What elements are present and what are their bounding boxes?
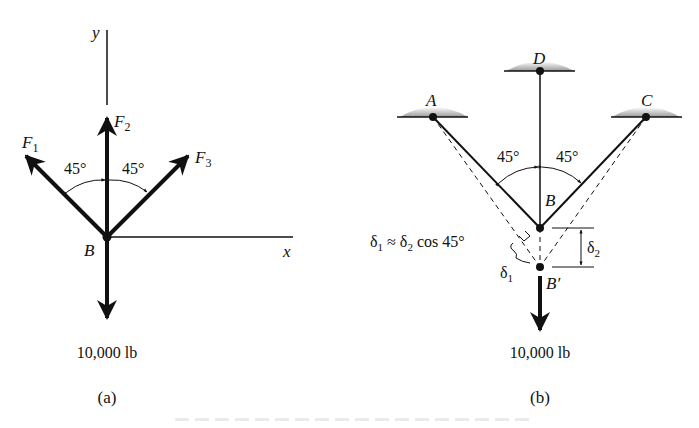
- delta-relation: δ1 ≈ δ2 cos 45°: [370, 233, 465, 253]
- force-f3-arrow: [107, 156, 188, 237]
- figure-canvas: y x F1 F2 F3 45° 45° B 10,000 lb (a): [0, 0, 699, 428]
- x-axis-label: x: [282, 242, 291, 261]
- delta2-label: δ2: [587, 239, 600, 259]
- angle-arc-left: [499, 167, 538, 183]
- support-a-label: A: [425, 91, 437, 110]
- f2-label: F2: [113, 112, 130, 134]
- angle-right-label: 45°: [556, 148, 578, 165]
- point-b: [536, 224, 544, 232]
- point-b-label: B: [84, 241, 95, 260]
- point-b-prime-label: B′: [546, 274, 560, 293]
- angle-left-label: 45°: [64, 160, 86, 177]
- angle-left-label: 45°: [497, 148, 519, 165]
- right-angle-marker: [519, 231, 530, 241]
- delta1-label: δ1: [500, 264, 513, 284]
- member-ab: [433, 117, 540, 228]
- angle-arc-left: [67, 180, 105, 192]
- panel-b-caption: (b): [530, 388, 550, 407]
- load-label: 10,000 lb: [77, 344, 137, 361]
- delta1-brace: [511, 243, 530, 263]
- y-axis-label: y: [90, 23, 100, 42]
- panel-a-caption: (a): [98, 388, 117, 407]
- point-b-label: B: [545, 191, 556, 210]
- point-b: [103, 233, 112, 242]
- support-c-label: C: [641, 91, 653, 110]
- angle-arc-right: [109, 180, 147, 192]
- f1-label: F1: [21, 133, 38, 155]
- panel-b: A D C 45° 45° B B′ δ1 ≈ δ2 cos 45° δ1 δ2…: [370, 49, 682, 407]
- member-cb: [540, 117, 646, 228]
- point-b-prime: [536, 263, 544, 271]
- support-d-label: D: [532, 49, 546, 68]
- angle-right-label: 45°: [122, 160, 144, 177]
- load-label: 10,000 lb: [510, 344, 570, 361]
- clipped-figure-caption: [0, 418, 699, 428]
- f3-label: F3: [194, 148, 211, 170]
- angle-arc-right: [542, 167, 581, 183]
- panel-a: y x F1 F2 F3 45° 45° B 10,000 lb (a): [21, 23, 293, 407]
